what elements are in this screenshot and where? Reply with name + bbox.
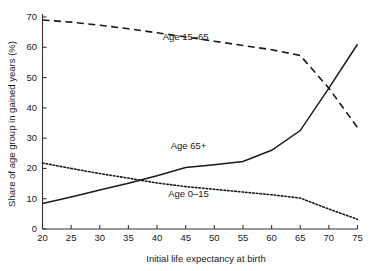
series-label-3: Age 0–15: [168, 188, 209, 199]
line-chart: 010203040506070202530354045505560657075 …: [0, 0, 370, 271]
y-tick-label: 70: [26, 11, 37, 22]
y-tick-label: 30: [26, 132, 37, 143]
x-tick-label: 55: [238, 232, 249, 243]
series-line-2: [43, 44, 358, 203]
series-label-1: Age 15–65: [163, 31, 209, 42]
tick-labels: 010203040506070202530354045505560657075: [26, 11, 362, 243]
x-tick-label: 75: [352, 232, 363, 243]
x-tick-label: 20: [37, 232, 48, 243]
y-tick-label: 50: [26, 72, 37, 83]
x-tick-label: 30: [94, 232, 105, 243]
chart-container: 010203040506070202530354045505560657075 …: [0, 0, 370, 271]
x-tick-label: 35: [123, 232, 134, 243]
x-tick-label: 60: [266, 232, 277, 243]
x-tick-label: 25: [66, 232, 77, 243]
y-axis-title: Share of age group in gained years (%): [6, 41, 17, 207]
x-tick-label: 40: [152, 232, 163, 243]
y-tick-label: 60: [26, 41, 37, 52]
series-label-2: Age 65+: [171, 140, 207, 151]
x-tick-label: 50: [209, 232, 220, 243]
x-axis-title: Initial life expectancy at birth: [146, 253, 265, 264]
y-tick-label: 20: [26, 162, 37, 173]
series-annotations: Age 15–65Age 65+Age 0–15: [163, 31, 209, 199]
y-tick-label: 10: [26, 193, 37, 204]
x-tick-label: 45: [180, 232, 191, 243]
y-tick-label: 40: [26, 102, 37, 113]
x-tick-label: 70: [324, 232, 335, 243]
y-tick-label: 0: [32, 223, 37, 234]
x-tick-label: 65: [295, 232, 306, 243]
